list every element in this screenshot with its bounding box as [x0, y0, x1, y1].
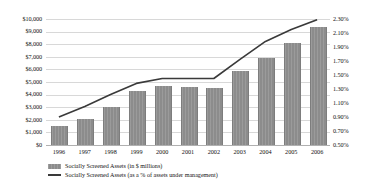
right-axis-tick-label: 1.50%	[333, 72, 373, 78]
right-axis-tick-label: 2.30%	[333, 16, 373, 22]
right-axis-tick-label: 1.30%	[333, 86, 373, 92]
left-axis-tick-label: $5,000	[0, 79, 42, 85]
bar	[103, 107, 120, 145]
bar-swatch-icon	[48, 164, 61, 169]
left-axis-tick-label: $0	[0, 142, 42, 148]
left-axis-tick-label: $1,000	[0, 129, 42, 135]
grid-line	[46, 145, 330, 146]
left-axis-tick-label: $6,000	[0, 66, 42, 72]
plot-area	[46, 19, 330, 145]
line-swatch-icon	[48, 174, 61, 176]
left-axis-tick-label: $7,000	[0, 54, 42, 60]
bar	[51, 126, 68, 145]
legend-item-line: Socially Screened Assets (as a % of asse…	[48, 171, 218, 180]
left-axis-tick-label: $3,000	[0, 104, 42, 110]
bar	[155, 86, 172, 145]
bar	[258, 58, 275, 145]
bar	[77, 119, 94, 145]
bar-series	[46, 19, 330, 145]
legend-label-line: Socially Screened Assets (as a % of asse…	[65, 171, 218, 180]
right-axis-tick-label: 1.70%	[333, 58, 373, 64]
bar	[232, 71, 249, 145]
bar	[129, 91, 146, 145]
left-axis-tick-label: $4,000	[0, 91, 42, 97]
legend-label-bars: Socially Screened Assets (in $ millions)	[65, 162, 162, 171]
right-axis-tick-label: 1.10%	[333, 100, 373, 106]
right-axis-tick-label: 0.70%	[333, 128, 373, 134]
x-axis-labels: 1996199719981999200020012002200320042005…	[46, 148, 330, 160]
right-axis-tick-label: 0.90%	[333, 114, 373, 120]
right-axis-tick-label: 2.10%	[333, 30, 373, 36]
left-axis-tick-label: $9,000	[0, 28, 42, 34]
bar	[206, 88, 223, 145]
chart-legend: Socially Screened Assets (in $ millions)…	[48, 162, 218, 179]
bar	[284, 43, 301, 145]
left-axis-tick-label: $8,000	[0, 41, 42, 47]
legend-item-bars: Socially Screened Assets (in $ millions)	[48, 162, 218, 171]
right-axis-tick-label: 0.50%	[333, 142, 373, 148]
chart-container: $0$1,000$2,000$3,000$4,000$5,000$6,000$7…	[0, 0, 375, 190]
right-axis-tick-label: 1.90%	[333, 44, 373, 50]
bar	[310, 27, 327, 145]
left-axis-tick-label: $2,000	[0, 117, 42, 123]
bar	[181, 87, 198, 145]
left-axis-tick-label: $10,000	[0, 16, 42, 22]
x-axis-tick-label: 2006	[302, 148, 332, 155]
